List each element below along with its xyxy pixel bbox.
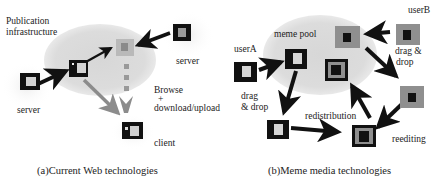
label-download-upload: download/upload: [154, 103, 220, 113]
diagram-graphics: [0, 0, 448, 184]
arrow-userB-to-pool: [367, 32, 390, 34]
label-drop-left: & drop: [241, 102, 268, 112]
pool-docB-icon: [335, 26, 360, 48]
label-publication: Publication: [6, 16, 49, 26]
client-doc-icon: [122, 122, 143, 139]
label-userB: userB: [408, 5, 430, 15]
label-client: client: [154, 138, 175, 148]
arrow-reedit-to-composite: [378, 104, 402, 127]
diagram: Publication infrastructure server server…: [0, 0, 448, 184]
reedit-doc-icon: [400, 86, 424, 108]
label-infrastructure: infrastructure: [6, 27, 57, 37]
userB-doc-icon: [396, 24, 420, 45]
userA-local-doc-icon: [267, 120, 289, 139]
label-reediting: reediting: [392, 134, 426, 144]
publication-infrastructure-pool: [44, 24, 156, 96]
pool-doc-icon: [69, 60, 88, 77]
server-left-doc-icon: [20, 73, 40, 90]
label-redistribution: redistribution: [305, 111, 356, 121]
label-meme-pool: meme pool: [274, 29, 316, 39]
pool-composite-doc-icon: [325, 59, 348, 81]
caption-a: (a)Current Web technologies: [37, 165, 158, 176]
composite-doc-icon: [352, 125, 376, 147]
label-server-right: server: [176, 56, 199, 66]
label-drag-left: drag: [241, 91, 258, 101]
panel-b: [234, 15, 424, 147]
published-doc-icon: [116, 39, 134, 56]
label-drop-right: drop: [396, 57, 413, 67]
caption-b: (b)Meme media technologies: [268, 165, 391, 176]
label-userA: userA: [234, 44, 257, 54]
server-right-doc-icon: [173, 24, 191, 41]
userA-doc-icon: [234, 62, 257, 82]
label-drag-right: drag &: [395, 46, 422, 56]
arrow-local-to-composite: [291, 128, 338, 132]
label-server-left: server: [17, 105, 40, 115]
pool-docA-icon: [285, 49, 307, 69]
